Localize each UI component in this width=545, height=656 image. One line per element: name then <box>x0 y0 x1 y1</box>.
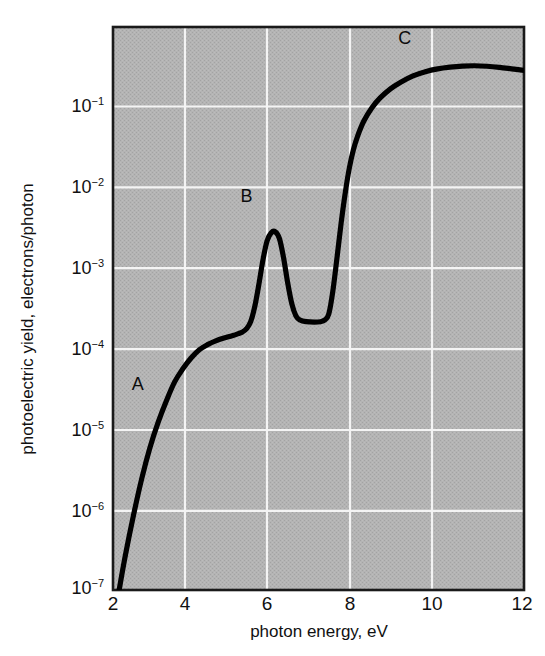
x-tick-12: 12 <box>511 594 532 613</box>
annotation-a: A <box>132 374 144 395</box>
y-tick-1e-1: 10−1 <box>18 97 104 115</box>
y-axis-title: photoelectric yield, electrons/photon <box>18 119 38 519</box>
x-tick-2: 2 <box>108 594 119 613</box>
x-tick-6: 6 <box>262 594 273 613</box>
y-tick-1e-7: 10−7 <box>18 579 104 597</box>
annotation-b: B <box>241 186 253 207</box>
photoelectric-yield-figure: 10−1 10−2 10−3 10−4 10−5 10−6 10−7 2 4 6… <box>0 0 545 656</box>
annotation-c: C <box>398 28 411 49</box>
plot-background <box>113 27 524 590</box>
x-axis-title: photon energy, eV <box>113 622 525 642</box>
x-tick-4: 4 <box>180 594 191 613</box>
x-tick-8: 8 <box>345 594 356 613</box>
x-tick-10: 10 <box>421 594 442 613</box>
